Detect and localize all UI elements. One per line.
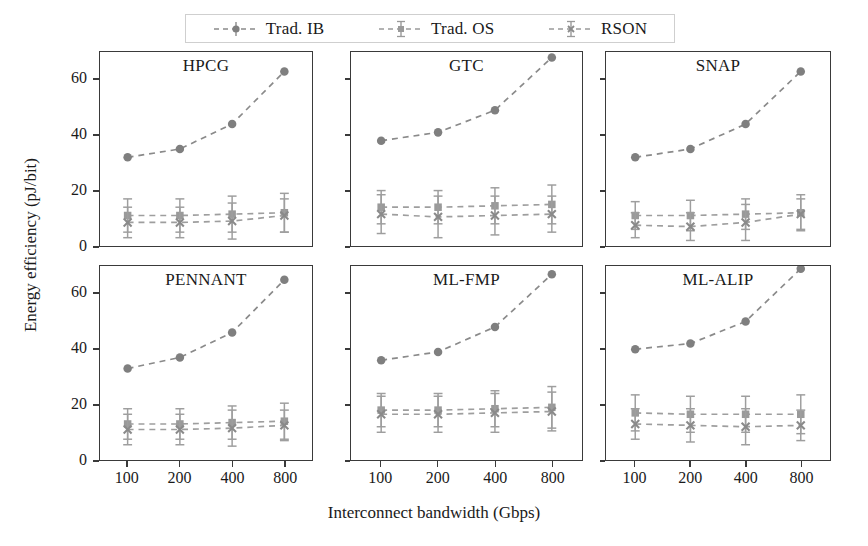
y-tick-label: 60 [53,283,87,301]
data-point-circle [377,356,386,365]
y-tick-mark [600,246,605,247]
series-line-square [381,407,552,410]
y-tick-label: 20 [53,181,87,199]
data-point-circle [797,67,806,76]
series-line-x [635,424,800,427]
y-tick-mark [93,404,99,405]
x-tick-mark [745,461,746,467]
legend-item-trad-ib: Trad. IB [213,19,325,39]
series-line-circle [128,280,285,369]
legend-label-rson: RSON [601,19,647,39]
data-point-circle [686,339,695,348]
data-point-circle [434,348,443,357]
x-tick-mark [634,461,635,467]
x-tick-label: 800 [262,469,308,487]
subplot-ml-fmp: ML-FMP [350,265,583,461]
data-point-circle [228,120,237,129]
x-tick-label: 200 [157,469,203,487]
y-tick-mark [345,292,350,293]
series-line-square [635,413,800,414]
data-point-circle [280,276,289,285]
x-tick-label: 100 [357,469,403,487]
subplot-hpcg: HPCG [99,51,313,247]
series-line-circle [381,58,552,141]
data-point-circle [631,153,640,162]
data-point-circle [228,328,237,337]
x-tick-mark [284,461,285,467]
subplot-plot-area [606,266,830,460]
y-tick-mark [93,460,99,461]
series-line-circle [128,71,285,157]
y-tick-mark [345,404,350,405]
subplot-plot-area [100,266,312,460]
y-tick-label: 40 [53,125,87,143]
data-point-circle [491,106,500,115]
data-point-circle [377,136,386,145]
data-point-circle [548,53,557,62]
x-tick-mark [689,461,690,467]
x-tick-label: 800 [530,469,576,487]
figure-canvas: Trad. IB Trad. OS RSON Energy [0,0,868,546]
legend-item-trad-os: Trad. OS [378,19,494,39]
series-line-x [128,425,285,429]
legend-label-trad-os: Trad. OS [431,19,494,39]
series-line-circle [381,274,552,360]
x-tick-label: 100 [104,469,150,487]
data-point-circle [741,317,750,326]
data-point-circle [123,364,132,373]
series-line-square [635,213,800,216]
x-tick-label: 200 [667,469,713,487]
x-tick-mark [552,461,553,467]
data-point-circle [686,145,695,154]
y-tick-mark [93,78,99,79]
y-tick-mark [345,348,350,349]
y-tick-mark [600,134,605,135]
subplot-ml-alip: ML-ALIP [605,265,831,461]
legend-marker-square-icon [378,20,424,38]
x-tick-mark [126,461,127,467]
legend: Trad. IB Trad. OS RSON [185,14,675,43]
subplot-snap: SNAP [605,51,831,247]
x-tick-label: 400 [472,469,518,487]
x-tick-mark [495,461,496,467]
y-tick-label: 0 [53,451,87,469]
y-tick-mark [93,292,99,293]
data-point-circle [631,345,640,354]
subplot-gtc: GTC [350,51,583,247]
y-tick-label: 0 [53,237,87,255]
legend-item-rson: RSON [548,19,647,39]
legend-label-trad-ib: Trad. IB [266,19,325,39]
series-line-circle [635,269,800,349]
y-tick-mark [93,348,99,349]
y-tick-mark [345,78,350,79]
y-tick-mark [345,460,350,461]
data-point-circle [434,128,443,137]
y-tick-mark [600,292,605,293]
series-line-square [128,421,285,424]
y-tick-mark [600,404,605,405]
x-tick-label: 100 [611,469,657,487]
series-line-circle [635,71,800,157]
subplot-plot-area [351,266,582,460]
y-tick-mark [600,460,605,461]
series-line-x [381,214,552,217]
y-tick-mark [93,134,99,135]
x-tick-mark [437,461,438,467]
y-tick-mark [600,78,605,79]
subplot-plot-area [351,52,582,246]
series-line-square [128,213,285,216]
x-tick-label: 800 [779,469,825,487]
subplot-plot-area [100,52,312,246]
y-tick-mark [345,134,350,135]
y-tick-mark [600,348,605,349]
legend-marker-x-icon [548,20,594,38]
y-tick-mark [93,246,99,247]
y-tick-label: 40 [53,339,87,357]
subplot-pennant: PENNANT [99,265,313,461]
y-tick-label: 60 [53,69,87,87]
series-line-square [381,204,552,207]
x-tick-label: 400 [209,469,255,487]
x-tick-label: 200 [415,469,461,487]
series-line-x [128,216,285,223]
data-point-circle [176,353,185,362]
